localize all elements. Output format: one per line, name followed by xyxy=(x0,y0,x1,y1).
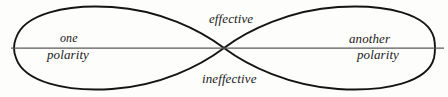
left-lobe-lower-curve xyxy=(14,48,224,90)
label-right-polarity: polarity xyxy=(357,48,399,61)
label-ineffective: ineffective xyxy=(202,72,257,85)
label-another: another xyxy=(349,32,390,45)
polarity-lemniscate-diagram: effective ineffective one polarity anoth… xyxy=(0,0,448,97)
label-left-polarity: polarity xyxy=(47,48,89,61)
label-effective: effective xyxy=(209,12,253,25)
right-lobe-upper-curve xyxy=(224,6,435,48)
label-one: one xyxy=(60,32,78,44)
left-lobe-upper-curve xyxy=(14,6,224,48)
